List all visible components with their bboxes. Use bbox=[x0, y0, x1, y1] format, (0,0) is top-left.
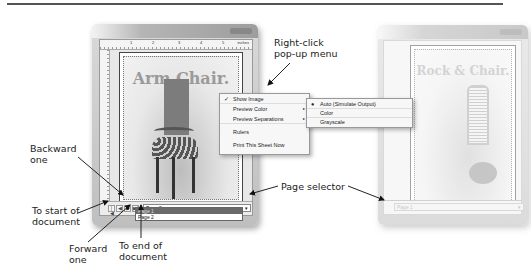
next-page-button[interactable]: ▶ bbox=[124, 205, 131, 212]
window-control-buttons[interactable] bbox=[500, 29, 522, 35]
window-control-buttons[interactable] bbox=[230, 28, 252, 34]
annotation-line: Right-click bbox=[274, 37, 338, 48]
annotation-line: one bbox=[30, 154, 76, 165]
page-option[interactable]: Page 2 bbox=[136, 214, 242, 220]
ruler-number: 1 bbox=[130, 40, 132, 45]
first-page-icon: |◀ bbox=[110, 205, 114, 216]
first-page-button[interactable]: |◀ bbox=[108, 205, 115, 212]
menu-item-label: Preview Separations bbox=[233, 116, 283, 122]
chair-image-seat bbox=[152, 137, 198, 159]
chair-image-leg bbox=[192, 157, 195, 193]
annotation-to-end: To end of document bbox=[119, 240, 167, 262]
annotation-right-click-menu: Right-click pop-up menu bbox=[274, 37, 338, 59]
submenu-item-label: Grayscale bbox=[320, 119, 345, 125]
annotation-to-start: To start of document bbox=[32, 205, 80, 227]
annotation-line: pop-up menu bbox=[274, 48, 338, 59]
annotation-page-selector: Page selector bbox=[281, 181, 345, 192]
context-menu: ✓ Show Image Preview Color ▸ Preview Sep… bbox=[219, 93, 310, 155]
menu-item-print-this-sheet[interactable]: Print This Sheet Now bbox=[220, 140, 309, 150]
top-divider-line bbox=[7, 3, 503, 5]
menu-item-label: Show Image bbox=[233, 96, 264, 102]
page-selector-value: Page 1 bbox=[397, 204, 413, 210]
page-selector-options: Page 1 Page 2 bbox=[135, 207, 243, 221]
menu-item-show-image[interactable]: ✓ Show Image bbox=[220, 94, 309, 104]
ruler-number: 3 bbox=[178, 40, 180, 45]
annotation-line: To end of bbox=[119, 240, 167, 251]
ruler-units: inches bbox=[237, 40, 249, 45]
page-selector-dropdown[interactable]: Page 1 ▾ bbox=[394, 203, 524, 211]
annotation-line: Forward bbox=[69, 243, 107, 254]
preview-color-submenu: ● Auto (Simulate Output) Color Grayscale bbox=[306, 98, 413, 128]
annotation-line: To start of bbox=[32, 205, 80, 216]
chair-image-leg bbox=[156, 157, 159, 193]
annotation-line: document bbox=[32, 216, 80, 227]
menu-item-label: Preview Color bbox=[233, 106, 267, 112]
next-page-icon: ▶ bbox=[126, 205, 130, 211]
submenu-item-grayscale[interactable]: Grayscale bbox=[307, 118, 412, 127]
vertical-ruler bbox=[100, 50, 110, 201]
dropdown-arrow-icon[interactable]: ▾ bbox=[518, 204, 521, 210]
submenu-item-color[interactable]: Color bbox=[307, 109, 412, 118]
submenu-arrow-icon: ▸ bbox=[303, 114, 305, 124]
previous-page-button[interactable]: ◀ bbox=[116, 205, 123, 212]
checkmark-icon: ✓ bbox=[224, 94, 229, 104]
preview-page: Rock & Chair. bbox=[410, 45, 516, 208]
radio-bullet-icon: ● bbox=[311, 99, 314, 109]
rocking-chair-image-back bbox=[467, 85, 489, 145]
ruler-number: 4 bbox=[200, 40, 202, 45]
window-titlebar bbox=[378, 25, 528, 39]
dropdown-arrow-icon[interactable]: ▾ bbox=[245, 205, 248, 211]
menu-item-label: Print This Sheet Now bbox=[233, 142, 285, 148]
menu-item-label: Rulers bbox=[233, 129, 249, 135]
submenu-item-label: Auto (Simulate Output) bbox=[320, 101, 376, 107]
annotation-line: document bbox=[119, 251, 167, 262]
annotation-backward-one: Backward one bbox=[30, 143, 76, 165]
ruler-number: 2 bbox=[152, 40, 154, 45]
submenu-item-label: Color bbox=[320, 110, 333, 116]
previous-page-icon: ◀ bbox=[118, 205, 122, 211]
window-titlebar bbox=[92, 24, 258, 38]
menu-item-rulers[interactable]: Rulers bbox=[220, 127, 309, 137]
ruler-number: 5 bbox=[222, 40, 224, 45]
submenu-item-auto[interactable]: ● Auto (Simulate Output) bbox=[307, 99, 412, 109]
annotation-forward-one: Forward one bbox=[69, 243, 107, 265]
chair-image-arm bbox=[154, 127, 194, 135]
submenu-arrow-icon: ▸ bbox=[303, 104, 305, 114]
menu-item-preview-separations[interactable]: Preview Separations ▸ bbox=[220, 114, 309, 124]
page-navigation-bar: Page 1 ▾ bbox=[384, 200, 521, 214]
arrow-right-click-menu bbox=[268, 63, 290, 85]
menu-item-preview-color[interactable]: Preview Color ▸ bbox=[220, 104, 309, 114]
annotation-line: Backward bbox=[30, 143, 76, 154]
annotation-line: one bbox=[69, 254, 107, 265]
rocking-chair-image-seat bbox=[469, 162, 497, 184]
chair-image-leg bbox=[172, 157, 175, 199]
horizontal-ruler: 1 2 3 4 5 inches bbox=[100, 40, 252, 50]
page-printable-area: Rock & Chair. bbox=[414, 49, 512, 204]
page-headline: Rock & Chair. bbox=[415, 64, 511, 78]
